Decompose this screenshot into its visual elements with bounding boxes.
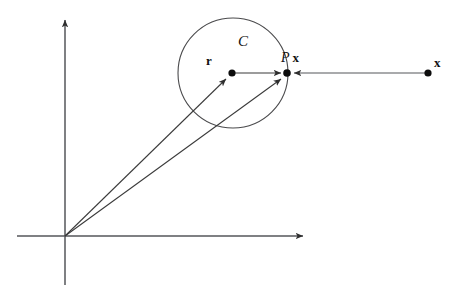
exterior-point bbox=[424, 69, 431, 76]
vector-origin-to-projection bbox=[65, 79, 281, 236]
center-vector-label-r: r bbox=[206, 54, 212, 67]
center-point bbox=[228, 69, 235, 76]
circle-label-C: C bbox=[238, 34, 248, 49]
vectors-group bbox=[65, 73, 427, 236]
axes-group bbox=[17, 20, 303, 285]
projection-vector-label: x bbox=[293, 50, 300, 65]
diagram-canvas bbox=[0, 0, 457, 296]
projection-point bbox=[283, 69, 291, 77]
projection-operator-label: P bbox=[281, 50, 290, 65]
vector-origin-to-center bbox=[65, 79, 226, 236]
projection-label-px: Px bbox=[281, 51, 299, 65]
geometry-figure: C r Px x bbox=[0, 0, 457, 296]
exterior-point-label-x: x bbox=[434, 56, 441, 69]
